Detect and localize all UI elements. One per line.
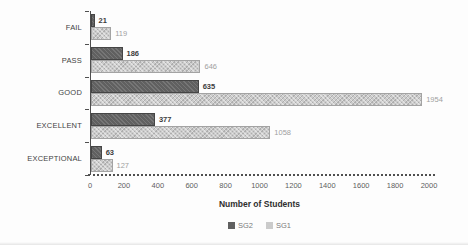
x-tick-label-1600: 1600 — [353, 181, 370, 190]
category-row-good: 6351954 — [91, 77, 430, 110]
category-label-good: GOOD — [0, 77, 82, 110]
x-tick-label-1200: 1200 — [285, 181, 302, 190]
legend-item-sg2: SG2 — [228, 221, 253, 230]
bar-line: 186 — [91, 47, 430, 60]
value-label-sg1-good: 1954 — [426, 95, 443, 104]
x-axis-ticks: 0200400600800100012001400160018002000 — [90, 181, 429, 191]
legend-item-sg1: SG1 — [266, 221, 291, 230]
bar-sg1-pass — [91, 60, 200, 73]
category-row-exceptional: 63127 — [91, 142, 430, 175]
bar-line: 127 — [91, 159, 430, 172]
legend-swatch-icon — [266, 222, 273, 229]
x-tick-label-1000: 1000 — [251, 181, 268, 190]
bar-line: 63 — [91, 146, 430, 159]
bar-sg1-excellent — [91, 126, 270, 139]
category-row-pass: 186646 — [91, 44, 430, 77]
x-tick-label-200: 200 — [118, 181, 131, 190]
value-label-sg2-exceptional: 63 — [106, 148, 114, 157]
plot-area: 211191866466351954377105863127 — [90, 11, 430, 175]
legend-label: SG2 — [238, 221, 253, 230]
bar-line: 635 — [91, 80, 430, 93]
x-tick-label-600: 600 — [185, 181, 198, 190]
bar-line: 1954 — [91, 93, 430, 106]
bar-sg1-exceptional — [91, 159, 113, 172]
category-row-excellent: 3771058 — [91, 109, 430, 142]
value-label-sg1-exceptional: 127 — [117, 161, 130, 170]
bar-sg2-exceptional — [91, 146, 102, 159]
category-label-exceptional: EXCEPTIONAL — [0, 142, 82, 175]
legend-swatch-icon — [228, 222, 235, 229]
value-label-sg2-good: 635 — [203, 82, 216, 91]
bar-line: 1058 — [91, 126, 430, 139]
bar-line: 21 — [91, 14, 430, 27]
x-axis-title: Number of Students — [90, 199, 429, 209]
legend: SG2SG1 — [90, 221, 429, 230]
x-tick-label-0: 0 — [88, 181, 92, 190]
category-label-fail: FAIL — [0, 11, 82, 44]
bar-sg1-fail — [91, 27, 111, 40]
x-tick-label-2000: 2000 — [421, 181, 438, 190]
bar-line: 646 — [91, 60, 430, 73]
value-label-sg2-excellent: 377 — [159, 115, 172, 124]
bar-sg2-pass — [91, 47, 123, 60]
category-row-fail: 21119 — [91, 11, 430, 44]
value-label-sg1-excellent: 1058 — [274, 128, 291, 137]
bar-sg2-fail — [91, 14, 95, 27]
category-label-excellent: EXCELLENT — [0, 109, 82, 142]
bar-sg2-excellent — [91, 113, 155, 126]
legend-label: SG1 — [276, 221, 291, 230]
y-axis-tick-marks — [85, 11, 89, 177]
value-label-sg1-pass: 646 — [204, 62, 217, 71]
x-tick-label-1400: 1400 — [319, 181, 336, 190]
x-tick-label-400: 400 — [152, 181, 165, 190]
y-axis-labels: FAILPASSGOODEXCELLENTEXCEPTIONAL — [0, 11, 82, 175]
category-label-pass: PASS — [0, 44, 82, 77]
x-tick-label-800: 800 — [219, 181, 232, 190]
x-tick-label-1800: 1800 — [387, 181, 404, 190]
value-label-sg2-fail: 21 — [99, 16, 107, 25]
value-label-sg2-pass: 186 — [127, 49, 140, 58]
bar-sg2-good — [91, 80, 199, 93]
bar-chart: FAILPASSGOODEXCELLENTEXCEPTIONAL 2111918… — [0, 0, 468, 245]
value-label-sg1-fail: 119 — [115, 29, 127, 38]
bar-line: 119 — [91, 27, 430, 40]
bar-line: 377 — [91, 113, 430, 126]
bar-sg1-good — [91, 93, 422, 106]
x-axis-line — [88, 174, 435, 176]
